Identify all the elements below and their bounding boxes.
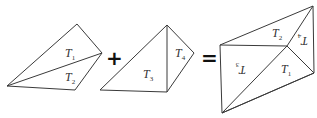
label-t4: T4 [175,46,186,62]
quad-1-diagonal [7,53,102,86]
combined-edge-c [287,46,314,73]
decomposition-diagram: T1 T2 + T3 T4 = T2 T4 T3 T1 [0,0,317,118]
label-combined-t2: T2 [272,26,283,42]
plus-sign: + [106,46,123,70]
combined-edge-d [222,46,287,113]
label-t2: T2 [65,70,76,86]
label-t1: T1 [65,46,76,62]
combined-edge-e [222,73,314,113]
svg-text:T4: T4 [297,32,308,48]
label-combined-t1: T1 [281,62,292,78]
svg-text:T3: T3 [235,61,246,77]
shape-quad-1: T1 T2 [7,24,102,90]
label-t3: T3 [143,67,154,83]
shape-combined: T2 T4 T3 T1 [220,6,314,113]
label-combined-t4-rotated: T4 [297,32,308,48]
combined-edge-a [220,45,287,46]
equals-sign: = [201,46,218,70]
quad-1-outline [7,24,102,90]
label-combined-t3-rotated: T3 [235,61,246,77]
